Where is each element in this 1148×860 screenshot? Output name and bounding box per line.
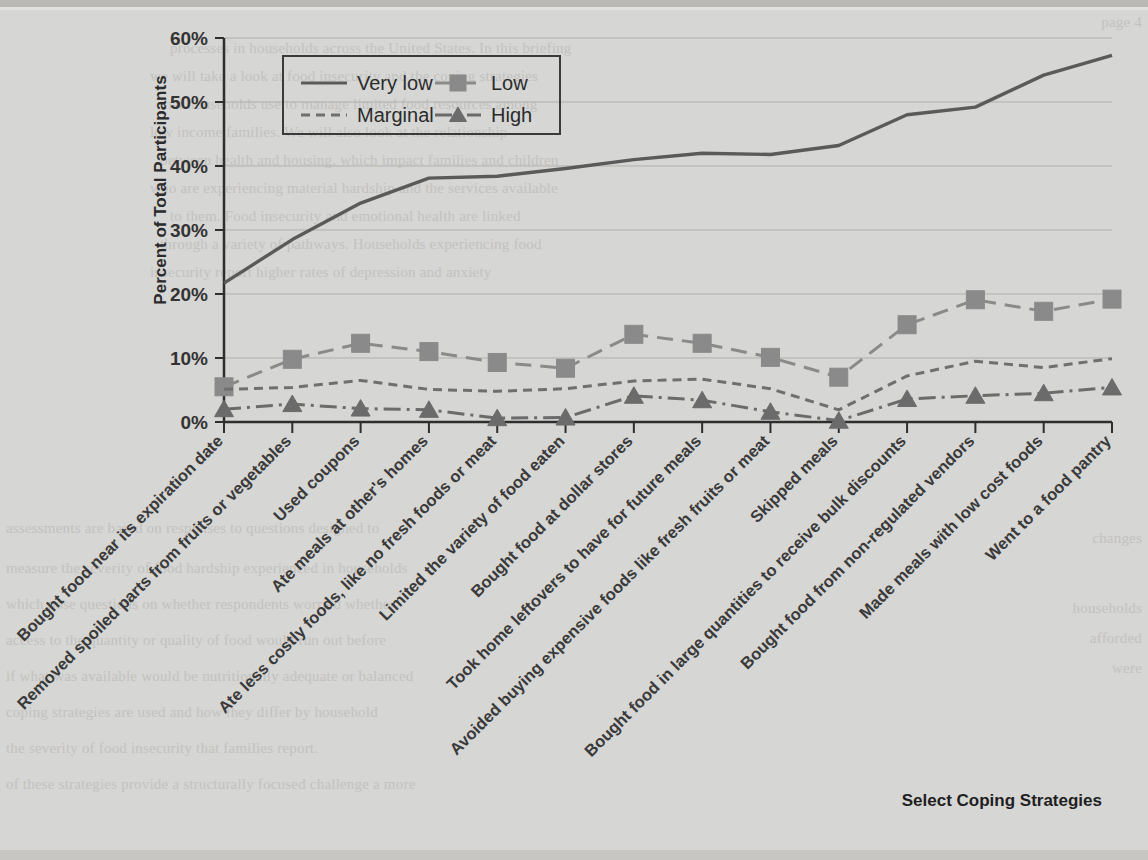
y-tick-label: 40%: [170, 156, 208, 177]
data-point-marker: [625, 325, 643, 343]
y-tick-label: 20%: [170, 284, 208, 305]
x-category-label: Took home leftovers to have for future m…: [443, 431, 704, 692]
y-axis-ticks: [215, 38, 224, 422]
data-point-marker: [283, 350, 301, 368]
legend-marker-triangle: [450, 107, 467, 122]
legend-item-label: High: [491, 104, 532, 126]
y-axis-title: Percent of Total Participants: [151, 75, 170, 304]
legend-item-low[interactable]: Low: [435, 72, 528, 94]
data-series-layer: [215, 55, 1122, 428]
chart-legend[interactable]: Very lowLowMarginalHigh: [283, 56, 560, 134]
page-bottom-edge: [0, 850, 1148, 860]
y-axis-tick-labels: 0%10%20%30%40%50%60%: [170, 28, 208, 433]
data-point-marker: [761, 348, 779, 366]
data-point-marker: [830, 368, 848, 386]
data-point-marker: [898, 316, 916, 334]
data-point-marker: [693, 391, 712, 408]
legend-item-high[interactable]: High: [435, 104, 532, 126]
y-tick-label: 30%: [170, 220, 208, 241]
legend-item-label: Very low: [357, 72, 433, 94]
data-point-marker: [966, 387, 985, 404]
y-tick-label: 10%: [170, 348, 208, 369]
y-tick-label: 0%: [181, 412, 209, 433]
y-axis-title-text: Percent of Total Participants: [151, 75, 170, 304]
data-point-marker: [557, 359, 575, 377]
data-point-marker: [352, 334, 370, 352]
data-point-marker: [898, 390, 917, 407]
data-point-marker: [420, 343, 438, 361]
data-point-marker: [215, 378, 233, 396]
data-point-marker: [1103, 378, 1122, 395]
data-point-marker: [1035, 302, 1053, 320]
legend-item-label: Low: [491, 72, 528, 94]
chart-figure: 0%10%20%30%40%50%60% Bought food near it…: [0, 0, 1148, 860]
y-tick-label: 50%: [170, 92, 208, 113]
page-top-edge: [0, 0, 1148, 7]
data-point-marker: [1103, 290, 1121, 308]
x-axis-title: Select Coping Strategies: [902, 791, 1102, 810]
legend-marker-square: [450, 75, 466, 91]
x-category-label: Bought food in large quantities to recei…: [581, 431, 909, 759]
x-axis-title-text: Select Coping Strategies: [902, 791, 1102, 810]
legend-item-marginal[interactable]: Marginal: [301, 104, 434, 126]
legend-item-very-low[interactable]: Very low: [301, 72, 433, 94]
x-axis-ticks: [224, 422, 1112, 433]
data-point-marker: [693, 334, 711, 352]
data-point-marker: [488, 353, 506, 371]
x-category-label: Went to a food pantry: [982, 431, 1115, 564]
x-category-label: Bought food from non-regulated vendors: [737, 431, 978, 672]
y-tick-label: 60%: [170, 28, 208, 49]
x-category-label: Avoided buying expensive foods like fres…: [446, 431, 773, 758]
data-point-marker: [966, 291, 984, 309]
legend-item-label: Marginal: [357, 104, 434, 126]
chart-canvas: 0%10%20%30%40%50%60% Bought food near it…: [0, 0, 1148, 860]
x-axis-category-labels: Bought food near its expiration dateRemo…: [13, 431, 1115, 760]
page-top-highlight: [0, 7, 1148, 10]
